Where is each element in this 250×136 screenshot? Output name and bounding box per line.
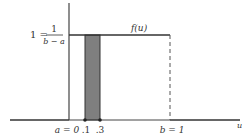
point-0.3 (98, 118, 102, 122)
uniform-density-chart: 1 = 1 b − a f(u) a = 0 .1 .3 b = 1 u (0, 0, 250, 136)
curve-label: f(u) (130, 23, 148, 33)
tick-label-0.3: .3 (96, 125, 105, 135)
tick-label-0.1: .1 (82, 125, 91, 135)
y-level-denominator: b − a (43, 37, 65, 46)
tick-label-b: b = 1 (160, 125, 185, 135)
point-0.1 (83, 118, 87, 122)
shaded-probability-region (85, 35, 100, 120)
y-level-numerator: 1 (51, 24, 57, 34)
tick-label-a: a = 0 (55, 125, 80, 135)
x-axis-label: u (237, 121, 242, 130)
